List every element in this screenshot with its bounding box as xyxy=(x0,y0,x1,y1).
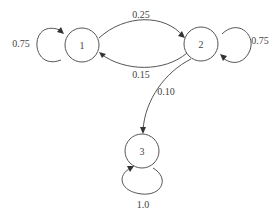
edge-1-to-2 xyxy=(99,20,185,38)
edge-2-to-3-label: 0.10 xyxy=(157,87,175,97)
node-3-label: 3 xyxy=(140,147,145,157)
edge-1-to-2-label: 0.25 xyxy=(132,10,150,20)
edge-2-to-2 xyxy=(220,28,251,63)
arrowhead-icon xyxy=(140,127,146,134)
state-diagram xyxy=(0,0,277,222)
edge-2-to-1-label: 0.15 xyxy=(132,70,150,80)
edge-3-to-3-label: 1.0 xyxy=(137,200,150,210)
arrowhead-icon xyxy=(57,27,64,34)
node-1-label: 1 xyxy=(80,41,85,51)
edge-2-to-2-label: 0.75 xyxy=(251,36,269,46)
edge-3-to-3 xyxy=(122,166,162,194)
node-2-label: 2 xyxy=(199,40,204,50)
edge-1-to-1 xyxy=(37,27,64,62)
arrowhead-icon xyxy=(127,166,134,172)
edge-2-to-1 xyxy=(99,52,187,67)
edge-1-to-1-label: 0.75 xyxy=(12,39,30,49)
